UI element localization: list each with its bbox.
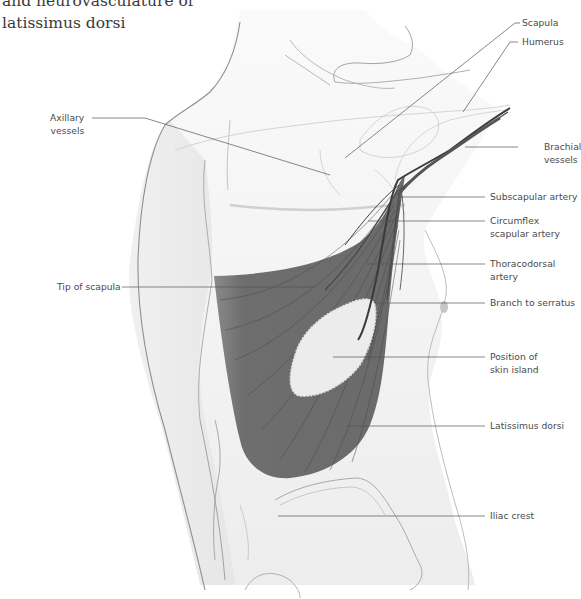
label-branch-serratus-text: Branch to serratus bbox=[490, 297, 575, 310]
label-skin-island-line-1: Position of bbox=[490, 351, 539, 364]
label-latissimus-text: Latissimus dorsi bbox=[490, 420, 564, 433]
label-iliac-crest: Iliac crest bbox=[490, 510, 534, 523]
label-humerus: Humerus bbox=[522, 36, 564, 49]
label-thoracodorsal-artery: Thoracodorsal artery bbox=[490, 258, 555, 283]
label-subscapular-text: Subscapular artery bbox=[490, 191, 577, 204]
label-humerus-text: Humerus bbox=[522, 36, 564, 49]
label-circumflex-line-2: scapular artery bbox=[490, 228, 560, 241]
label-scapula-text: Scapula bbox=[522, 17, 558, 30]
label-brachial-line-1: Brachial bbox=[544, 141, 581, 154]
label-position-of-skin-island: Position of skin island bbox=[490, 351, 539, 376]
label-scapula: Scapula bbox=[522, 17, 558, 30]
label-brachial-line-2: vessels bbox=[544, 154, 581, 167]
label-tip-scapula-text: Tip of scapula bbox=[57, 281, 121, 294]
label-thoracodorsal-line-1: Thoracodorsal bbox=[490, 258, 555, 271]
label-axillary-line-1: Axillary bbox=[50, 112, 84, 125]
label-circumflex-line-1: Circumflex bbox=[490, 215, 560, 228]
label-iliac-text: Iliac crest bbox=[490, 510, 534, 523]
label-brachial-vessels: Brachial vessels bbox=[544, 141, 581, 166]
label-axillary-vessels: Axillary vessels bbox=[50, 112, 84, 137]
label-thoracodorsal-line-2: artery bbox=[490, 271, 555, 284]
label-tip-of-scapula: Tip of scapula bbox=[57, 281, 121, 294]
label-axillary-line-2: vessels bbox=[50, 125, 84, 138]
label-skin-island-line-2: skin island bbox=[490, 364, 539, 377]
label-circumflex-scapular-artery: Circumflex scapular artery bbox=[490, 215, 560, 240]
label-subscapular-artery: Subscapular artery bbox=[490, 191, 577, 204]
label-latissimus-dorsi: Latissimus dorsi bbox=[490, 420, 564, 433]
label-branch-to-serratus: Branch to serratus bbox=[490, 297, 575, 310]
